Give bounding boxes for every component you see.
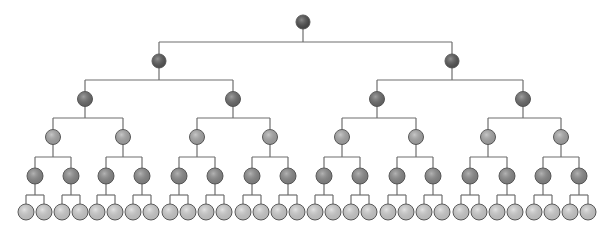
- tree-node-level-5-29: [544, 204, 560, 220]
- tree-node-level-5-8: [162, 204, 178, 220]
- tree-node-level-5-26: [489, 204, 505, 220]
- tree-node-level-4-5: [207, 168, 223, 184]
- tree-node-level-5-7: [143, 204, 159, 220]
- tree-node-level-3-3: [263, 130, 278, 145]
- tree-node-level-4-11: [425, 168, 441, 184]
- tree-node-level-4-15: [571, 168, 587, 184]
- tree-node-level-5-27: [507, 204, 523, 220]
- tree-node-level-4-10: [389, 168, 405, 184]
- tree-node-level-5-19: [361, 204, 377, 220]
- tree-node-level-5-23: [434, 204, 450, 220]
- tree-node-level-3-4: [335, 130, 350, 145]
- tree-node-level-3-6: [481, 130, 496, 145]
- tree-node-level-5-28: [526, 204, 542, 220]
- tree-node-level-5-22: [416, 204, 432, 220]
- tree-node-level-5-31: [580, 204, 596, 220]
- tree-node-level-2-0: [78, 92, 93, 107]
- tree-node-level-5-16: [307, 204, 323, 220]
- tree-node-level-5-30: [562, 204, 578, 220]
- tree-node-level-4-3: [134, 168, 150, 184]
- tree-node-level-4-7: [280, 168, 296, 184]
- tree-node-level-3-5: [409, 130, 424, 145]
- tree-node-level-3-1: [116, 130, 131, 145]
- tree-node-level-2-1: [226, 92, 241, 107]
- tree-node-level-5-4: [89, 204, 105, 220]
- tree-node-level-4-6: [244, 168, 260, 184]
- tree-node-level-5-20: [380, 204, 396, 220]
- tree-node-level-4-14: [535, 168, 551, 184]
- tree-node-level-5-15: [289, 204, 305, 220]
- binary-tree-diagram: [0, 0, 612, 232]
- tree-node-level-4-0: [27, 168, 43, 184]
- tree-node-level-4-2: [98, 168, 114, 184]
- tree-node-level-5-6: [125, 204, 141, 220]
- tree-node-level-5-14: [271, 204, 287, 220]
- tree-node-level-1-0: [152, 54, 166, 68]
- tree-node-level-5-24: [453, 204, 469, 220]
- tree-node-level-5-13: [253, 204, 269, 220]
- tree-node-level-5-2: [54, 204, 70, 220]
- tree-node-level-5-5: [107, 204, 123, 220]
- tree-node-level-5-25: [471, 204, 487, 220]
- tree-node-level-3-2: [190, 130, 205, 145]
- tree-node-level-5-3: [72, 204, 88, 220]
- tree-node-level-4-12: [462, 168, 478, 184]
- tree-node-level-5-0: [18, 204, 34, 220]
- tree-node-level-5-10: [198, 204, 214, 220]
- tree-node-level-2-2: [370, 92, 385, 107]
- tree-node-level-5-17: [325, 204, 341, 220]
- tree-node-level-4-13: [499, 168, 515, 184]
- tree-node-level-4-9: [352, 168, 368, 184]
- tree-node-level-3-0: [46, 130, 61, 145]
- tree-node-level-5-12: [235, 204, 251, 220]
- tree-node-level-5-11: [216, 204, 232, 220]
- tree-node-level-4-4: [171, 168, 187, 184]
- tree-node-level-4-8: [316, 168, 332, 184]
- tree-node-level-1-1: [445, 54, 459, 68]
- tree-node-level-5-9: [180, 204, 196, 220]
- tree-node-level-0-0: [296, 15, 310, 29]
- tree-node-level-5-1: [36, 204, 52, 220]
- tree-node-level-2-3: [516, 92, 531, 107]
- tree-node-level-5-21: [398, 204, 414, 220]
- tree-node-level-4-1: [63, 168, 79, 184]
- tree-node-level-3-7: [554, 130, 569, 145]
- tree-node-level-5-18: [343, 204, 359, 220]
